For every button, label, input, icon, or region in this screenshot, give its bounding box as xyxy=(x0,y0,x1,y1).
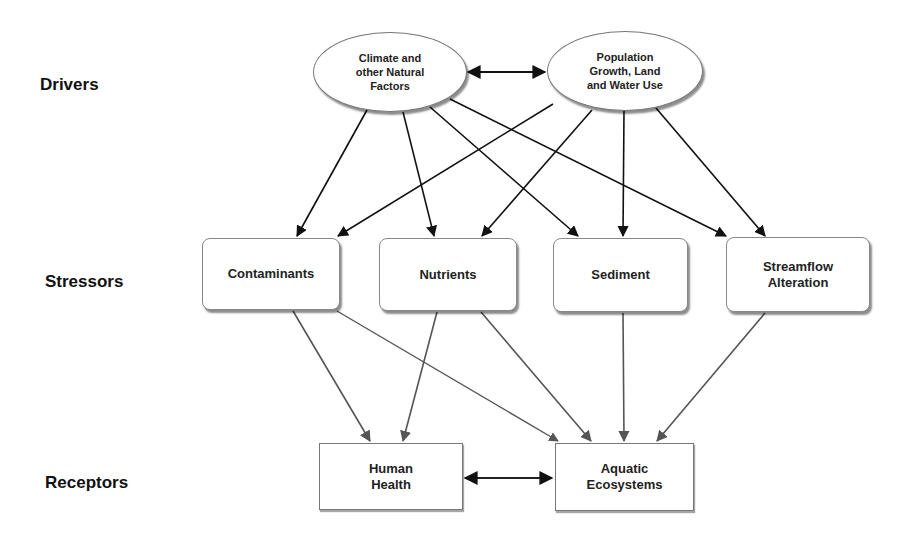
arrow-streamflow-aquatic xyxy=(657,313,765,441)
node-streamflow-label: Streamflow Alteration xyxy=(763,259,833,291)
node-sediment: Sediment xyxy=(553,238,688,312)
node-climate-label: Climate and other Natural Factors xyxy=(356,51,424,93)
node-human-health: Human Health xyxy=(319,443,463,510)
row-label-drivers: Drivers xyxy=(40,75,99,95)
node-aquatic: Aquatic Ecosystems xyxy=(555,443,694,511)
arrow-climate-streamflow xyxy=(450,99,726,236)
row-label-stressors: Stressors xyxy=(45,272,123,292)
node-streamflow: Streamflow Alteration xyxy=(726,237,870,312)
arrow-climate-nutrients xyxy=(403,112,434,236)
node-human-health-label: Human Health xyxy=(369,461,413,493)
arrow-sediment-aquatic xyxy=(623,313,624,441)
row-label-receptors: Receptors xyxy=(45,473,128,493)
node-climate: Climate and other Natural Factors xyxy=(313,32,467,112)
arrow-population-nutrients xyxy=(482,110,592,236)
node-population-label: Population Growth, Land and Water Use xyxy=(587,50,663,92)
arrow-climate-contaminants xyxy=(297,110,367,236)
arrow-population-streamflow xyxy=(656,108,765,236)
arrow-nutrients-aquatic xyxy=(481,312,591,441)
arrow-population-contaminants xyxy=(338,104,553,236)
node-sediment-label: Sediment xyxy=(591,267,650,283)
node-contaminants: Contaminants xyxy=(202,238,340,310)
arrow-contaminants-human-health xyxy=(293,311,370,441)
node-nutrients: Nutrients xyxy=(379,238,517,311)
node-aquatic-label: Aquatic Ecosystems xyxy=(587,461,663,493)
arrow-nutrients-human-health xyxy=(403,312,437,441)
node-nutrients-label: Nutrients xyxy=(419,267,476,283)
arrow-contaminants-aquatic xyxy=(337,311,558,441)
arrow-population-sediment xyxy=(623,111,624,236)
node-population: Population Growth, Land and Water Use xyxy=(547,31,703,111)
node-contaminants-label: Contaminants xyxy=(228,266,315,282)
